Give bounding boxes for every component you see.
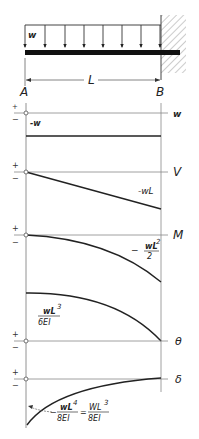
deflection-axis-label: δ <box>175 373 182 386</box>
end-label-a: A <box>19 85 28 99</box>
svg-text:8EI: 8EI <box>88 414 101 423</box>
slope-diagram: wL 3 6EI + − θ <box>12 293 182 352</box>
svg-text:WL: WL <box>89 403 101 412</box>
beam-bar <box>25 50 180 55</box>
svg-text:3: 3 <box>104 399 108 407</box>
svg-text:+: + <box>12 368 19 377</box>
fixed-wall-hatch <box>161 15 186 73</box>
svg-text:4: 4 <box>73 399 77 407</box>
load-diagram: + − w -w <box>12 103 182 136</box>
svg-text:+: + <box>12 330 19 339</box>
slope-curve <box>26 293 161 341</box>
slope-annotation: wL 3 6EI <box>38 303 61 327</box>
moment-annotation: − wL 2 2 <box>131 238 161 261</box>
load-arrows <box>23 25 161 48</box>
load-axis-label: w <box>173 109 182 119</box>
svg-text:=: = <box>80 408 87 417</box>
svg-text:+: + <box>12 103 18 111</box>
moment-curve <box>26 235 161 282</box>
svg-text:−: − <box>12 381 19 390</box>
moment-axis-label: M <box>173 228 184 242</box>
svg-text:−: − <box>12 238 19 247</box>
shear-annotation: -wL <box>138 186 154 196</box>
beam-sketch: w L A B <box>19 15 186 99</box>
deflection-diagram: + − δ − wL 4 8EI = WL 3 8EI <box>12 368 182 425</box>
shear-diagram: + − V -wL <box>12 161 182 209</box>
load-label: w <box>28 30 37 40</box>
beam-diagram: w L A B + − w -w + − V -wL + − M <box>0 0 199 439</box>
svg-text:3: 3 <box>57 303 61 311</box>
slope-axis-label: θ <box>175 335 182 348</box>
svg-text:−: − <box>131 245 139 255</box>
svg-text:+: + <box>12 161 19 170</box>
svg-text:wL: wL <box>60 403 73 412</box>
shear-axis-label: V <box>173 165 182 179</box>
span-label: L <box>88 73 95 87</box>
svg-text:−: − <box>12 174 19 183</box>
moment-diagram: + − M − wL 2 2 <box>12 224 184 282</box>
svg-text:+: + <box>12 224 19 233</box>
svg-text:8EI: 8EI <box>57 414 70 423</box>
load-annotation: -w <box>30 119 41 128</box>
svg-text:2: 2 <box>147 252 152 261</box>
end-label-b: B <box>156 85 164 99</box>
svg-text:6EI: 6EI <box>38 318 51 327</box>
svg-text:wL: wL <box>43 307 56 316</box>
svg-text:−: − <box>12 343 19 352</box>
svg-text:−: − <box>12 115 19 124</box>
svg-text:−: − <box>50 408 57 417</box>
svg-text:2: 2 <box>156 238 161 246</box>
